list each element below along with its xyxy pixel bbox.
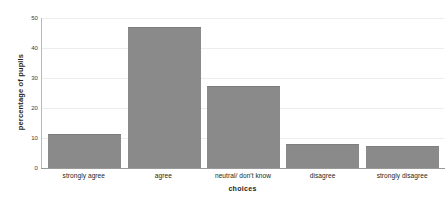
x-axis-title: choices: [41, 185, 444, 192]
x-axis-tick-label: strongly disagree: [362, 171, 442, 183]
x-axis-tick-labels: strongly agreeagreeneutral/ don't knowdi…: [41, 171, 444, 183]
plot-area: [41, 18, 444, 168]
x-axis-tick-label: neutral/ don't know: [203, 171, 283, 183]
y-axis-tick-label: 20: [22, 105, 38, 111]
bar[interactable]: [286, 144, 359, 168]
x-axis-tick-label: strongly agree: [44, 171, 124, 183]
bar[interactable]: [48, 134, 121, 169]
y-axis-tick-label: 40: [22, 45, 38, 51]
bar-chart: percentage of pupils 01020304050 strongl…: [0, 0, 447, 203]
bar-slot: [283, 18, 362, 168]
y-axis-tick-labels: 01020304050: [22, 18, 38, 168]
bar[interactable]: [128, 27, 201, 168]
bar-slot: [204, 18, 283, 168]
y-axis-tick-label: 0: [22, 165, 38, 171]
y-axis-tick-label: 10: [22, 135, 38, 141]
bar-slot: [45, 18, 124, 168]
y-axis-tick-label: 30: [22, 75, 38, 81]
bar[interactable]: [366, 146, 439, 169]
bar[interactable]: [207, 86, 280, 169]
x-axis-tick-label: agree: [124, 171, 204, 183]
bar-slot: [124, 18, 203, 168]
x-axis-tick-label: disagree: [283, 171, 363, 183]
y-axis-tick-label: 50: [22, 15, 38, 21]
bar-series: [42, 18, 444, 168]
bar-slot: [363, 18, 442, 168]
x-axis-line: [41, 168, 445, 169]
